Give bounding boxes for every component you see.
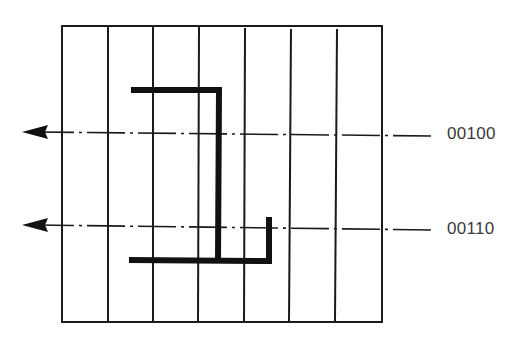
scan-line-label-1: 00100 [447, 124, 496, 144]
grid-column-line [198, 27, 199, 322]
diagram-canvas [0, 0, 523, 341]
arrow-left-icon [22, 218, 48, 232]
dash-dot-line [36, 132, 435, 136]
dash-dot-line [36, 225, 435, 230]
grid-column-line [335, 29, 337, 322]
grid-border [62, 26, 382, 322]
grid-column-line [289, 29, 291, 322]
scan-line-label-2: 00110 [447, 219, 495, 239]
arrow-left-icon [22, 125, 48, 139]
scan-line-2 [22, 218, 435, 232]
grid-column-line [244, 28, 245, 322]
shape-upper-stroke [131, 90, 219, 261]
grid [62, 26, 382, 322]
scan-line-1 [22, 125, 435, 139]
